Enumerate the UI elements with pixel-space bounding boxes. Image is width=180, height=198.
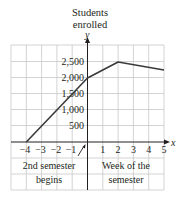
x-tick-neg2: −2 [51, 144, 62, 155]
x-tick-5: 5 [162, 144, 167, 155]
x-tick-neg4: −4 [20, 144, 31, 155]
annotation-right-line2: semester [109, 174, 145, 185]
y-tick-2000: 2,000 [62, 72, 85, 83]
annotation-left-line2: begins [36, 174, 62, 185]
chart-plot: x y 2,500 2,000 1,500 1,000 500 −4 −3 −2… [0, 0, 180, 198]
annotation-right-line1: Week of the [102, 160, 151, 171]
x-tick-neg3: −3 [35, 144, 46, 155]
x-axis-name: x [170, 137, 176, 148]
x-tick-4: 4 [146, 144, 151, 155]
annotation-left-line1: 2nd semester [23, 160, 76, 171]
x-tick-3: 3 [131, 144, 136, 155]
x-tick-2: 2 [116, 144, 121, 155]
y-axis-name: y [84, 29, 90, 40]
annotation-pointer [78, 146, 84, 156]
x-tick-labels: −4 −3 −2 −1 1 2 3 4 5 [20, 144, 167, 155]
x-tick-neg1: −1 [66, 144, 77, 155]
y-tick-1000: 1,000 [62, 104, 85, 115]
enrollment-line [26, 62, 164, 142]
y-tick-2500: 2,500 [62, 56, 85, 67]
x-tick-1: 1 [100, 144, 105, 155]
y-tick-500: 500 [69, 120, 84, 131]
